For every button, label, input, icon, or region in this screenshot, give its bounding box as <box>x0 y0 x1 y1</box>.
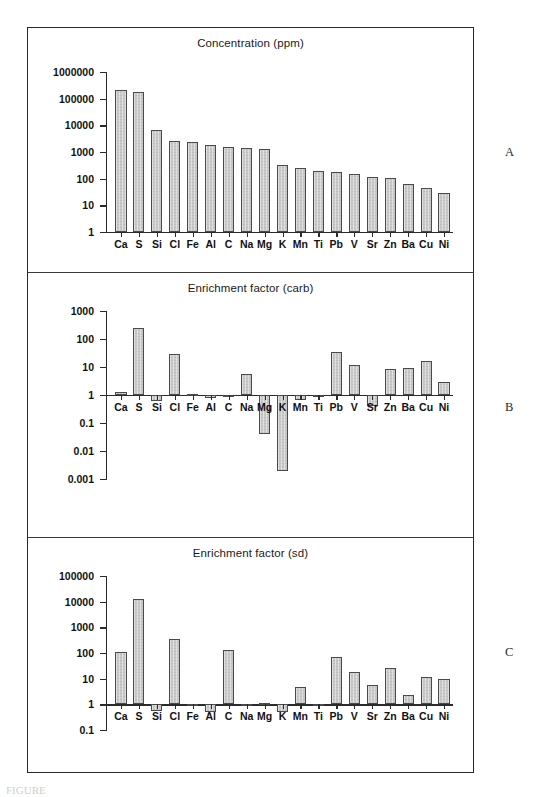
x-axis-tick <box>390 704 391 709</box>
x-axis-tick <box>175 232 176 237</box>
x-axis-tick <box>193 232 194 237</box>
y-axis-tick <box>100 576 107 577</box>
x-axis-category-label: Sr <box>367 238 378 250</box>
y-axis-tick <box>100 704 107 705</box>
y-axis-tick-label: 0.1 <box>79 724 94 736</box>
bar-pb <box>331 657 342 704</box>
x-axis-tick <box>318 232 319 237</box>
y-axis-tick-label: 100 <box>76 333 94 345</box>
x-axis-category-label: Ti <box>314 710 323 722</box>
bar-v <box>349 672 360 704</box>
x-axis-tick <box>265 232 266 237</box>
y-axis-tick-label: 0.1 <box>79 417 94 429</box>
bar-ti <box>313 171 324 232</box>
x-axis-tick <box>300 395 301 400</box>
x-axis-category-label: Mn <box>293 238 308 250</box>
bar-mn <box>295 687 306 704</box>
x-axis-tick <box>336 395 337 400</box>
x-axis-category-label: Ca <box>114 401 127 413</box>
x-axis-category-label: Ba <box>401 710 414 722</box>
x-axis-category-label: C <box>225 710 233 722</box>
x-axis-tick <box>211 232 212 237</box>
x-axis-tick <box>139 232 140 237</box>
x-axis-category-label: Ti <box>314 238 323 250</box>
y-axis-tick <box>100 179 107 180</box>
x-axis-tick <box>139 395 140 400</box>
x-axis-category-label: Sr <box>367 710 378 722</box>
y-axis-tick-label: 10 <box>82 673 94 685</box>
bar-cu <box>421 677 432 705</box>
y-axis-tick <box>100 602 107 603</box>
bar-na <box>241 374 252 395</box>
x-axis-tick <box>318 704 319 709</box>
bar-c <box>223 147 234 232</box>
x-axis-tick <box>247 395 248 400</box>
panel-a-title: Concentration (ppm) <box>28 28 473 49</box>
x-axis-tick <box>444 704 445 709</box>
panel-b-plot-area: 10001001010.10.010.001CaSSiClFeAlCNaMgKM… <box>106 311 453 479</box>
x-axis-tick <box>157 232 158 237</box>
y-axis-tick <box>100 311 107 312</box>
bar-ba <box>403 368 414 395</box>
x-axis-category-label: Ca <box>114 238 127 250</box>
x-axis-tick <box>336 704 337 709</box>
y-axis-tick-label: 0.01 <box>74 445 94 457</box>
bar-ni <box>438 193 449 232</box>
panel-b-title: Enrichment factor (carb) <box>28 273 473 294</box>
bar-si <box>151 130 162 232</box>
x-axis-category-label: C <box>225 238 233 250</box>
x-axis-category-label: Cu <box>419 710 433 722</box>
y-axis-tick <box>100 99 107 100</box>
x-axis-category-label: Cu <box>419 238 433 250</box>
x-axis-tick <box>426 704 427 709</box>
x-axis-category-label: K <box>279 401 287 413</box>
y-axis-tick <box>100 395 107 396</box>
bar-cl <box>169 354 180 395</box>
y-axis-tick-label: 0.001 <box>68 473 94 485</box>
x-axis-tick <box>121 232 122 237</box>
x-axis-tick <box>390 232 391 237</box>
x-axis-tick <box>300 232 301 237</box>
bar-cl <box>169 639 180 705</box>
panel-letter-a: A <box>505 145 514 160</box>
x-axis-category-label: Si <box>152 710 162 722</box>
x-axis-tick <box>121 704 122 709</box>
x-axis-tick <box>336 232 337 237</box>
x-axis-tick <box>372 704 373 709</box>
y-axis-tick <box>100 232 107 233</box>
x-axis-category-label: K <box>279 710 287 722</box>
x-axis-category-label: Ni <box>439 401 450 413</box>
x-axis-tick <box>408 232 409 237</box>
x-axis-tick <box>318 395 319 400</box>
y-axis-tick <box>100 152 107 153</box>
x-axis-tick <box>247 232 248 237</box>
y-axis-tick <box>100 479 107 480</box>
y-axis-tick <box>100 730 107 731</box>
figure-frame: Concentration (ppm) 11010010001000010000… <box>27 27 474 773</box>
x-axis-tick <box>283 704 284 709</box>
x-axis-category-label: V <box>351 710 358 722</box>
x-axis-category-label: Ni <box>439 710 450 722</box>
x-axis-tick <box>157 395 158 400</box>
x-axis-category-label: Cl <box>170 710 181 722</box>
x-axis-category-label: Cl <box>170 238 181 250</box>
figure-caption-partial: FIGURE <box>6 784 46 795</box>
x-axis-category-label: Zn <box>384 401 397 413</box>
bar-ni <box>438 679 449 704</box>
x-axis-category-label: Zn <box>384 710 397 722</box>
x-axis-category-label: S <box>135 710 142 722</box>
x-axis-tick <box>283 232 284 237</box>
x-axis-category-label: Mg <box>257 710 272 722</box>
y-axis-tick-label: 1 <box>88 226 94 238</box>
x-axis-category-label: Na <box>240 238 253 250</box>
x-axis-category-label: S <box>135 401 142 413</box>
y-axis-tick <box>100 125 107 126</box>
panel-a-plot-area: 1101001000100001000001000000CaSSiClFeAlC… <box>106 72 453 232</box>
y-axis-tick-label: 1000 <box>71 146 94 158</box>
x-axis-tick <box>139 704 140 709</box>
panel-letter-b: B <box>505 400 513 415</box>
bar-na <box>241 148 252 232</box>
x-axis-tick <box>175 704 176 709</box>
y-axis-tick-label: 100000 <box>59 93 94 105</box>
y-axis-tick-label: 10 <box>82 361 94 373</box>
